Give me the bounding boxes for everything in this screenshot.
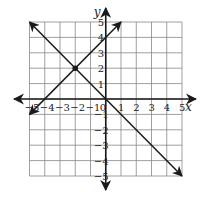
x-tick-label: 4	[164, 102, 170, 113]
x-tick-label: −2	[70, 102, 85, 113]
x-tick-label: 3	[149, 102, 155, 113]
y-tick-label: 1	[98, 79, 104, 90]
y-tick-label: 3	[98, 48, 104, 59]
x-tick-label: −4	[40, 102, 55, 113]
y-tick-label: −3	[94, 140, 109, 151]
x-tick-label: 2	[133, 102, 139, 113]
intersection-point	[72, 65, 78, 71]
y-tick-label: 2	[98, 63, 104, 74]
data-points	[72, 65, 78, 71]
y-tick-label: −1	[94, 109, 109, 120]
y-tick-label: −4	[94, 156, 109, 167]
x-tick-label: −3	[55, 102, 70, 113]
x-axis-label: x	[185, 100, 192, 114]
x-tick-label: 5	[179, 102, 185, 113]
y-tick-label: −5	[94, 171, 109, 182]
chart-svg: xy −5−4−3−2−1012345−5−4−3−2−112345	[0, 0, 206, 199]
y-tick-label: 5	[98, 17, 104, 28]
y-tick-label: −2	[94, 125, 109, 136]
coordinate-plane-chart: xy −5−4−3−2−1012345−5−4−3−2−112345	[0, 0, 206, 199]
